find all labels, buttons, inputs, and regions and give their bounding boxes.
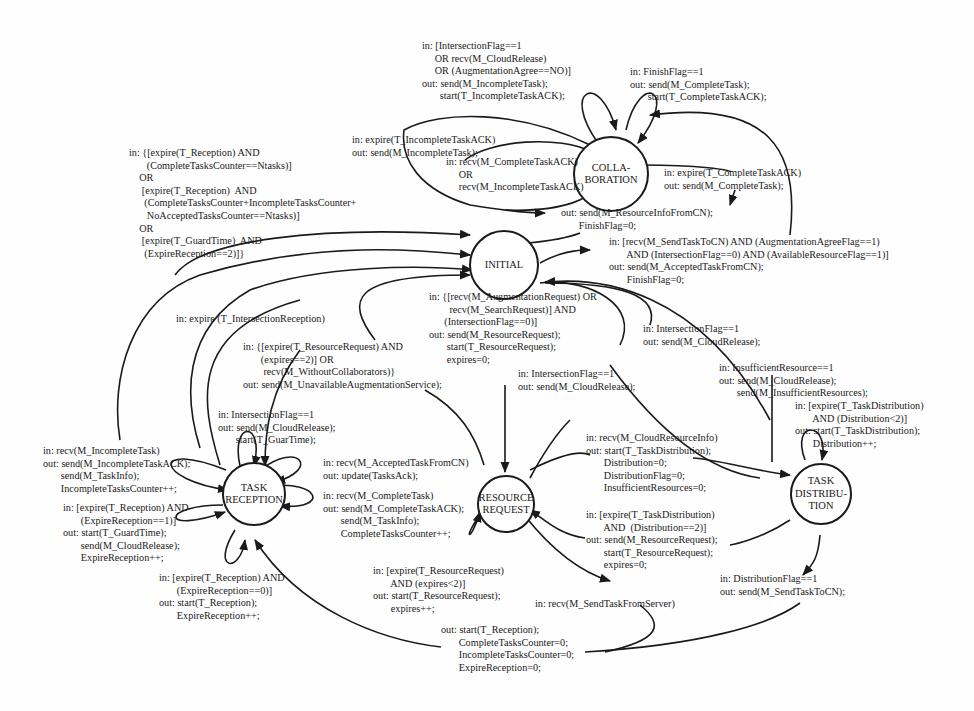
label-collab-expire-complete-ack: in: expire(T_CompleteTaskACK) out: send(… [664,167,801,192]
label-reception-self-accepted: in: recv(M_AcceptedTaskFromCN) out: upda… [323,457,469,482]
label-distribution-flag: in: DistributionFlag==1 out: send(M_Send… [720,573,845,598]
label-reception-self-intersection: in: IntersectionFlag==1 out: send(M_Clou… [218,409,335,447]
label-request-to-distribution: in: recv(M_CloudResourceInfo) out: start… [586,432,718,495]
label-collab-recv-ack: in: recv(M_CompleteTaskACK) OR recv(M_In… [446,156,584,194]
label-distribution-insufficient: in: InsufficientResource==1 out: send(M_… [719,362,868,400]
label-reception-self-incomplete: in: recv(M_IncompleteTask) out: send(M_I… [43,445,190,495]
label-initial-to-collab: in: [recv(M_SendTaskToCN) AND (Augmentat… [609,236,889,286]
state-resource-request: RESOURCE REQUEST [477,475,535,533]
label-request-intersection: in: IntersectionFlag==1 out: send(M_Clou… [518,368,635,393]
label-reception-self-expire1: in: [expire(T_Reception) AND (ExpireRece… [63,502,189,565]
state-task-distribution: TASK DISTRIBU- TION [790,463,852,525]
label-reception-self-complete: in: recv(M_CompleteTask) out: send(M_Com… [323,490,464,540]
label-reception-to-initial: in: {[expire(T_Reception) AND (CompleteT… [129,147,356,260]
label-request-self-expire: in: [expire(T_ResourceRequest) AND (expi… [373,565,504,615]
label-reception-self-expire0: in: [expire(T_Reception) AND (ExpireRece… [159,572,285,622]
label-distribution-to-request: in: [expire(T_TaskDistribution) AND (Dis… [586,509,718,572]
label-reception-intersection-expire: in: expire (T_IntersectionReception) [176,313,325,326]
state-collaboration: COLLA- BORATION [573,136,649,212]
state-initial: INITIAL [469,230,539,300]
label-to-reception-out: out: start(T_Reception); CompleteTasksCo… [441,624,574,674]
label-request-send-task-from-server: in: recv(M_SendTaskFromServer) [535,598,675,611]
state-task-reception: TASK RECEPTION [222,462,286,526]
state-machine-diagram: COLLA- BORATION INITIAL TASK RECEPTION R… [0,0,974,711]
label-collab-to-initial-out: out: send(M_ResourceInfoFromCN); FinishF… [561,207,713,232]
label-collab-self-incomplete: in: [IntersectionFlag==1 OR recv(M_Cloud… [422,40,571,103]
label-distribution-intersection: in: IntersectionFlag==1 out: send(M_Clou… [643,323,760,348]
label-request-to-initial-unavailable: in: {[expire(T_ResourceRequest) AND (exp… [243,341,442,391]
label-collab-self-finish: in: FinishFlag==1 out: send(M_CompleteTa… [630,66,767,104]
label-distribution-self-expire: in: [expire(T_TaskDistribution) AND (Dis… [795,400,924,450]
label-initial-to-request: in: {[recv(M_AugmentationRequest) OR rec… [429,291,597,367]
